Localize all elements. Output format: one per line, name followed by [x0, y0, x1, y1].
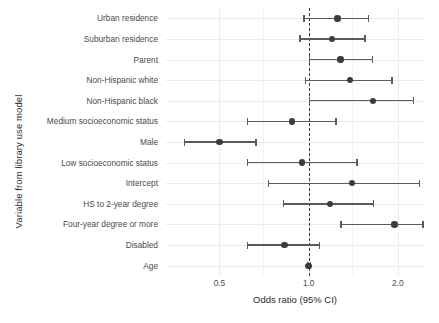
confidence-interval-cap [299, 35, 300, 42]
horizontal-gridline [166, 18, 424, 19]
confidence-interval-cap [340, 221, 341, 228]
confidence-interval-cap [373, 200, 374, 207]
y-axis-tick-label: Four-year degree or more [63, 219, 158, 229]
estimate-point[interactable] [281, 242, 287, 248]
confidence-interval-cap [247, 242, 248, 249]
x-axis-tick-label: 0.5 [214, 278, 226, 288]
y-axis-title-text: Variable from library use model [14, 95, 25, 229]
confidence-interval-cap [335, 118, 336, 125]
y-axis-tick-label: Male [140, 137, 158, 147]
y-axis-tick-label: Age [143, 261, 158, 271]
vertical-gridline-minor [352, 8, 353, 276]
y-axis-tick-label: HS to 2-year degree [83, 199, 158, 209]
confidence-interval-line [268, 183, 418, 184]
x-axis-tick-label: 1.0 [303, 278, 315, 288]
confidence-interval-cap [364, 35, 365, 42]
confidence-interval-cap [283, 200, 284, 207]
horizontal-gridline [166, 39, 424, 40]
confidence-interval-cap [419, 180, 420, 187]
estimate-point[interactable] [329, 36, 335, 42]
horizontal-gridline [166, 266, 424, 267]
estimate-point[interactable] [305, 263, 311, 269]
y-axis-tick-label: Non-Hispanic black [87, 96, 158, 106]
confidence-interval-cap [413, 97, 414, 104]
confidence-interval-cap [372, 56, 373, 63]
plot-panel [166, 8, 424, 276]
confidence-interval-cap [268, 180, 269, 187]
x-axis-title: Odds ratio (95% CI) [166, 294, 424, 305]
estimate-point[interactable] [391, 221, 397, 227]
estimate-point[interactable] [349, 180, 355, 186]
estimate-point[interactable] [337, 56, 343, 62]
confidence-interval-cap [247, 118, 248, 125]
estimate-point[interactable] [299, 159, 305, 165]
y-axis-title: Variable from library use model [8, 0, 30, 323]
confidence-interval-cap [391, 77, 392, 84]
confidence-interval-cap [309, 97, 310, 104]
estimate-point[interactable] [327, 201, 333, 207]
confidence-interval-cap [368, 15, 369, 22]
confidence-interval-cap [319, 242, 320, 249]
y-axis-tick-label: Parent [134, 55, 158, 65]
confidence-interval-cap [247, 159, 248, 166]
y-axis-tick-label: Intercept [126, 178, 158, 188]
confidence-interval-cap [309, 56, 310, 63]
confidence-interval-cap [305, 77, 306, 84]
y-axis-tick-label: Medium socioeconomic status [47, 116, 158, 126]
x-axis-tick-label: 2.0 [392, 278, 404, 288]
confidence-interval-cap [184, 139, 185, 146]
y-axis-tick-label: Low socioeconomic status [61, 158, 158, 168]
confidence-interval-cap [422, 221, 423, 228]
estimate-point[interactable] [216, 139, 222, 145]
confidence-interval-cap [356, 159, 357, 166]
estimate-point[interactable] [289, 118, 295, 124]
confidence-interval-line [340, 224, 422, 225]
estimate-point[interactable] [370, 98, 376, 104]
vertical-gridline-minor [263, 8, 264, 276]
confidence-interval-line [309, 100, 413, 101]
confidence-interval-cap [255, 139, 256, 146]
y-axis-tick-label: Non-Hispanic white [87, 75, 158, 85]
confidence-interval-cap [303, 15, 304, 22]
vertical-gridline [398, 8, 399, 276]
reference-line-at-1 [309, 8, 310, 276]
x-axis: 0.51.02.0 [166, 276, 424, 296]
y-axis-tick-label: Disabled [126, 240, 158, 250]
horizontal-gridline [166, 60, 424, 61]
forest-plot-figure: Variable from library use model Urban re… [0, 0, 439, 323]
y-axis-tick-labels: Urban residenceSuburban residenceParentN… [30, 0, 162, 323]
estimate-point[interactable] [334, 15, 340, 21]
y-axis-tick-label: Suburban residence [84, 34, 158, 44]
y-axis-tick-label: Urban residence [97, 13, 158, 23]
